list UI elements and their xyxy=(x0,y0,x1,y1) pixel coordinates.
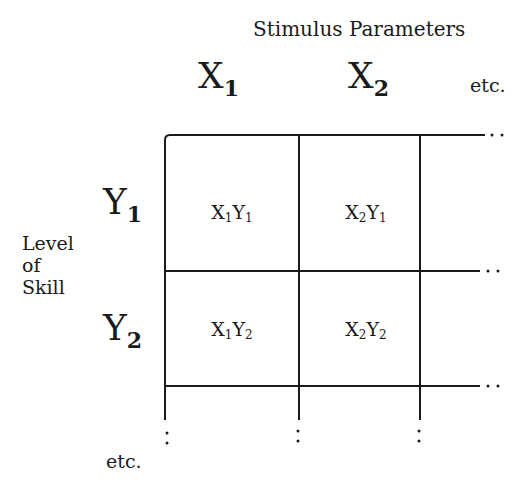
cell-x2y2: X2Y2 xyxy=(306,318,426,342)
cell-x1y2: X1Y2 xyxy=(172,318,292,342)
cell-x2y1: X2Y1 xyxy=(306,201,426,225)
grid-lines xyxy=(0,0,529,487)
cell-x1y1: X1Y1 xyxy=(172,201,292,225)
